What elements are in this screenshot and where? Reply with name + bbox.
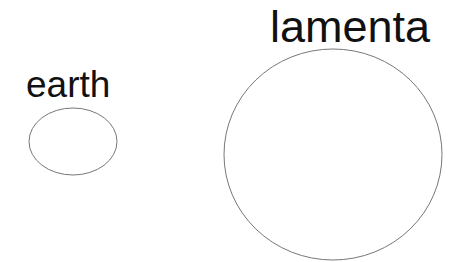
lamenta-circle (224, 49, 442, 260)
diagram-canvas: earth lamenta (0, 0, 468, 262)
earth-ellipse (29, 108, 117, 175)
lamenta-label: lamenta (270, 4, 430, 49)
earth-label: earth (26, 66, 110, 103)
